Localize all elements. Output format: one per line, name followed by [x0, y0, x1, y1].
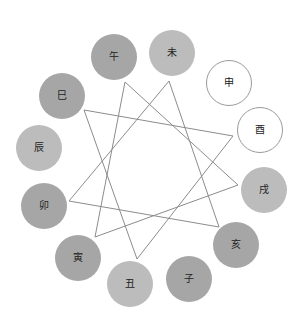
branch-label: 戌: [259, 185, 269, 195]
triangle-wu-xu-yin: [95, 82, 238, 237]
branch-zi: 子: [166, 256, 212, 302]
branch-label: 未: [167, 48, 177, 58]
branch-xu: 戌: [241, 167, 287, 213]
branch-label: 亥: [231, 240, 241, 250]
branch-hai: 亥: [213, 222, 259, 268]
branch-label: 丑: [125, 279, 135, 289]
branch-yin: 寅: [55, 235, 101, 281]
branch-label: 申: [224, 78, 234, 88]
branch-chou: 丑: [107, 261, 153, 307]
triangle-wei-hai-mao: [69, 81, 219, 227]
branch-chen: 辰: [16, 125, 62, 171]
branch-label: 午: [109, 52, 119, 62]
branch-label: 卯: [39, 201, 49, 211]
branch-label: 子: [184, 274, 194, 284]
earthly-branches-diagram: 午 未 申 酉 戌 亥 子 丑 寅 卯 辰 巳: [0, 0, 307, 326]
branch-shen: 申: [206, 60, 252, 106]
triangle-si-you-chou: [84, 110, 233, 259]
branch-label: 酉: [255, 125, 265, 135]
branch-wei: 未: [149, 30, 195, 76]
branch-label: 巳: [57, 91, 67, 101]
branch-label: 寅: [73, 253, 83, 263]
branch-wu: 午: [91, 34, 137, 80]
branch-you: 酉: [237, 107, 283, 153]
branch-label: 辰: [34, 143, 44, 153]
branch-mao: 卯: [21, 183, 67, 229]
branch-si: 巳: [39, 73, 85, 119]
